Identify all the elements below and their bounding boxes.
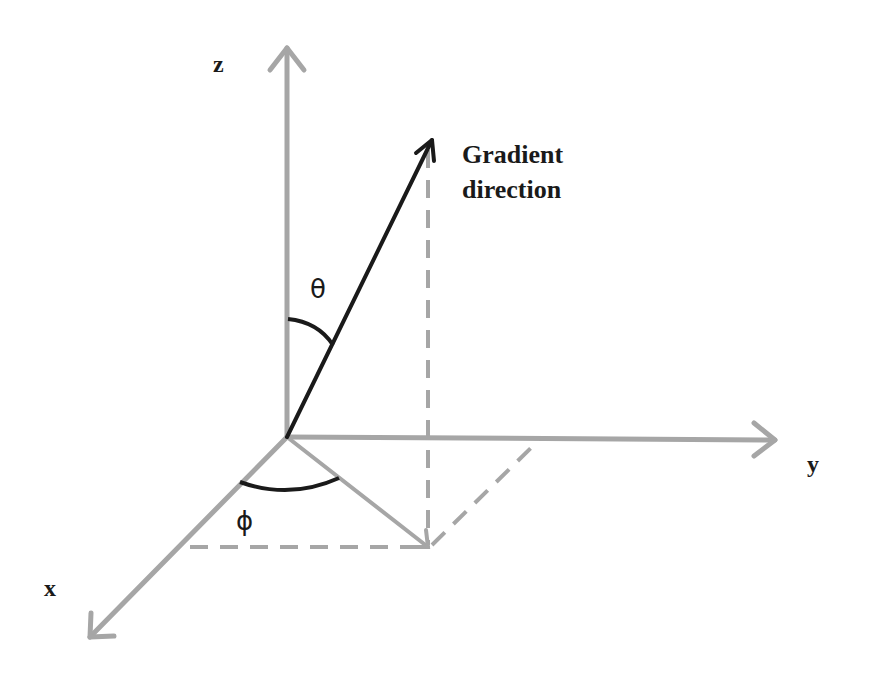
phi-label: ϕ — [236, 506, 253, 536]
xy-projection — [287, 437, 428, 547]
z-axis-label: z — [213, 51, 224, 77]
phi-arc — [240, 478, 339, 490]
y-parallel-dashed-line — [432, 442, 537, 545]
theta-label: θ — [310, 274, 326, 304]
z-axis — [270, 48, 304, 437]
x-axis — [90, 437, 287, 637]
y-axis — [287, 423, 775, 456]
gradient-direction-label-line2: direction — [462, 175, 562, 204]
gradient-direction-label-line1: Gradient — [462, 140, 563, 169]
gradient-direction-diagram: z y x Gradient direction θ ϕ — [0, 0, 871, 675]
y-axis-label: y — [807, 451, 819, 477]
x-axis-label: x — [44, 575, 56, 601]
theta-arc — [288, 319, 333, 345]
